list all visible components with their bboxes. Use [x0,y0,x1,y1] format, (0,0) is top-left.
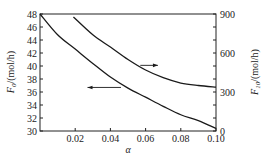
y-left-tick-label: 40 [27,61,37,72]
y-right-tick-label: 0 [220,126,225,137]
y-right-axis-label: F10/(mol/h) [249,49,262,96]
arrow-left-head-icon [88,86,93,90]
axes [40,14,216,131]
svg-text:F0/(mol/h): F0/(mol/h) [5,51,18,94]
x-tick-label: 0.06 [137,133,155,144]
arrow-right-head-icon [153,64,158,68]
plot-frame [40,14,216,131]
chart-figure: 0.020.040.060.080.1030323436384042444648… [0,0,268,159]
y-left-tick-label: 30 [27,126,37,137]
y-left-tick-label: 32 [27,113,37,124]
ticks: 0.020.040.060.080.1030323436384042444648… [27,9,235,145]
y-right-tick-label: 900 [220,9,235,20]
x-tick-label: 0.08 [172,133,190,144]
curves [40,14,216,128]
y-left-axis-label: F0/(mol/h) [5,51,18,94]
x-axis-label: α [125,144,131,155]
x-tick-label: 0.04 [102,133,120,144]
y-right-tick-label: 600 [220,48,235,59]
y-left-tick-label: 38 [27,74,37,85]
y-right-tick-label: 300 [220,87,235,98]
y-left-tick-label: 46 [27,22,37,33]
svg-text:F10/(mol/h): F10/(mol/h) [249,49,262,96]
plot-area: 0.020.040.060.080.1030323436384042444648… [0,0,268,159]
y-left-tick-label: 34 [27,100,37,111]
y-left-tick-label: 36 [27,87,37,98]
curve-f0 [40,14,216,128]
curve-f10 [73,17,216,87]
y-left-tick-label: 48 [27,9,37,20]
x-tick-label: 0.02 [66,133,84,144]
y-left-tick-label: 42 [27,48,37,59]
y-left-tick-label: 44 [27,35,37,46]
